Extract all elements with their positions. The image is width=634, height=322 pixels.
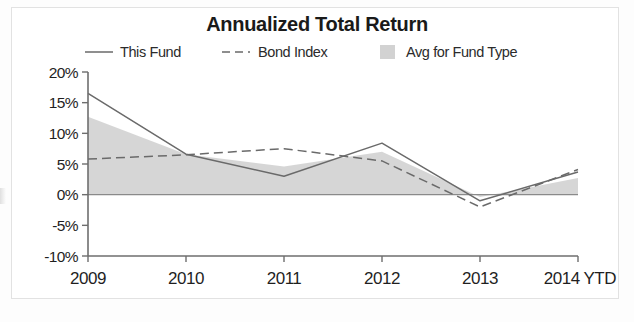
chart-title: Annualized Total Return bbox=[206, 13, 428, 35]
legend-item-this-fund: This Fund bbox=[85, 44, 181, 60]
y-tick-label: 10% bbox=[49, 125, 79, 142]
x-axis-tick-labels: 200920102011201220132014 YTD bbox=[70, 269, 616, 288]
y-tick-label: 20% bbox=[49, 64, 79, 81]
legend-item-bond-index: Bond Index bbox=[222, 44, 329, 60]
legend-label-this-fund: This Fund bbox=[120, 44, 181, 60]
legend-label-avg-for-fund-type: Avg for Fund Type bbox=[406, 44, 517, 60]
chart-legend: This Fund Bond Index Avg for Fund Type bbox=[85, 44, 517, 60]
chart-page: Annualized Total Return This Fund Bond I… bbox=[0, 0, 634, 322]
x-tick-label: 2014 YTD bbox=[544, 269, 616, 288]
square-swatch-marker-icon bbox=[380, 45, 395, 59]
x-tick-label: 2010 bbox=[168, 269, 204, 288]
y-tick-label: 5% bbox=[57, 156, 79, 173]
x-tick-label: 2012 bbox=[364, 269, 400, 288]
x-tick-label: 2009 bbox=[70, 269, 106, 288]
y-tick-label: 15% bbox=[49, 94, 79, 111]
y-axis-tick-labels: 20%15%10%5%0%-5%-10% bbox=[44, 64, 79, 265]
series-area-avg-for-fund-type bbox=[88, 117, 578, 197]
y-tick-label: -5% bbox=[52, 217, 79, 234]
legend-item-avg-for-fund-type: Avg for Fund Type bbox=[380, 44, 517, 60]
x-tick-label: 2013 bbox=[462, 269, 498, 288]
legend-label-bond-index: Bond Index bbox=[258, 44, 329, 60]
plot-area bbox=[88, 93, 578, 206]
y-tick-label: -10% bbox=[44, 248, 79, 265]
x-tick-label: 2011 bbox=[267, 269, 302, 288]
y-tick-label: 0% bbox=[57, 186, 79, 203]
annualized-total-return-chart: Annualized Total Return This Fund Bond I… bbox=[0, 0, 634, 322]
